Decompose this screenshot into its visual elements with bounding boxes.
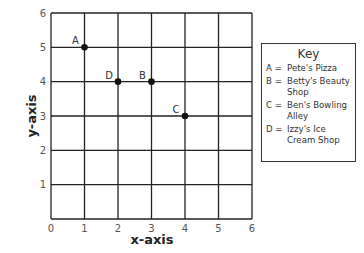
legend-name: Izzy's Ice Cream Shop bbox=[287, 124, 351, 146]
legend-entry: A = Pete's Pizza bbox=[266, 63, 351, 74]
legend-name: Ben's Bowling Alley bbox=[287, 100, 351, 122]
data-point bbox=[182, 113, 189, 120]
legend-name: Betty's Beauty Shop bbox=[287, 76, 351, 98]
x-tick-label: 2 bbox=[115, 223, 121, 234]
y-tick-label: 6 bbox=[40, 8, 46, 19]
point-label: D bbox=[105, 70, 113, 81]
legend-letter: C = bbox=[266, 100, 287, 122]
legend-entry: C = Ben's Bowling Alley bbox=[266, 100, 351, 122]
y-tick-label: 3 bbox=[40, 111, 46, 122]
x-tick-label: 4 bbox=[182, 223, 188, 234]
legend-letter: D = bbox=[266, 124, 287, 146]
legend-title: Key bbox=[266, 47, 351, 61]
data-point bbox=[81, 44, 88, 51]
grid-lines bbox=[51, 13, 252, 219]
legend-key: Key A = Pete's Pizza B = Betty's Beauty … bbox=[261, 43, 356, 162]
legend-entry: B = Betty's Beauty Shop bbox=[266, 76, 351, 98]
legend-name: Pete's Pizza bbox=[287, 63, 351, 74]
x-tick-label: 6 bbox=[249, 223, 255, 234]
y-tick-label: 4 bbox=[40, 76, 46, 87]
y-tick-label: 2 bbox=[40, 145, 46, 156]
y-axis-label: y-axis bbox=[24, 94, 39, 137]
legend-entry: D = Izzy's Ice Cream Shop bbox=[266, 124, 351, 146]
y-tick-label: 1 bbox=[40, 179, 46, 190]
point-label: A bbox=[72, 35, 79, 46]
y-tick-label: 5 bbox=[40, 42, 46, 53]
x-tick-label: 1 bbox=[81, 223, 87, 234]
legend-letter: A = bbox=[266, 63, 287, 74]
point-label: C bbox=[173, 104, 180, 115]
x-axis-label: x-axis bbox=[130, 232, 173, 247]
x-tick-label: 5 bbox=[215, 223, 221, 234]
data-point bbox=[148, 78, 155, 85]
legend-letter: B = bbox=[266, 76, 287, 98]
data-point bbox=[115, 78, 122, 85]
point-label: B bbox=[139, 70, 146, 81]
x-tick-label: 0 bbox=[48, 223, 54, 234]
